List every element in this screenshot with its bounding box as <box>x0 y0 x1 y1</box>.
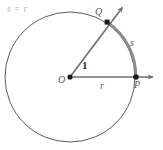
radian-diagram-figure: s = r Q s 1 O r P <box>0 0 163 150</box>
diagram-canvas <box>0 0 163 150</box>
point-label-q: Q <box>95 7 102 17</box>
point-dot-O <box>67 74 72 79</box>
identity-label-s-equals-r: s = r <box>7 5 28 15</box>
point-dot-Q <box>105 20 110 25</box>
arc-segment-s <box>107 22 136 77</box>
point-label-o: O <box>58 75 65 85</box>
point-label-p: P <box>134 80 140 90</box>
angle-label-one-radian: 1 <box>82 60 88 71</box>
arc-length-label-s: s <box>130 38 134 48</box>
radius-label-r: r <box>100 81 104 91</box>
